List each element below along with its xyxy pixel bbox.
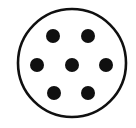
dot-middle-center [65,58,79,72]
dot-top-right [81,29,95,43]
dot-bottom-left [47,86,61,100]
dot-bottom-right [81,86,95,100]
figure-canvas [0,0,136,128]
dotted-circle-diagram [0,0,136,128]
dot-middle-right [99,58,113,72]
dot-top-left [46,29,60,43]
dot-middle-left [30,58,44,72]
